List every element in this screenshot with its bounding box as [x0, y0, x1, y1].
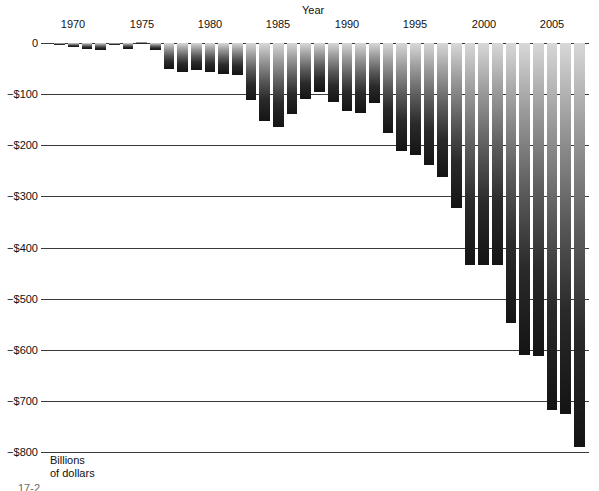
x-axis-tick-label: 1995 [403, 18, 427, 30]
bar [478, 43, 489, 265]
y-axis-tick-mark [41, 401, 50, 402]
x-axis-title: Year [302, 4, 324, 16]
bar [259, 43, 270, 121]
bar [492, 43, 503, 265]
y-axis-tick-label: −$800 [0, 446, 38, 458]
gridline [50, 401, 589, 402]
bar [68, 43, 79, 47]
bar [465, 43, 476, 265]
bar [342, 43, 353, 111]
bar [109, 43, 120, 45]
y-axis-tick-label: −$300 [0, 190, 38, 202]
x-axis-tick-label: 2000 [472, 18, 496, 30]
x-axis-tick-label: 1970 [61, 18, 85, 30]
y-axis-tick-mark [41, 248, 50, 249]
bar [123, 43, 134, 49]
bar [533, 43, 544, 356]
bar [246, 43, 257, 100]
bar [136, 42, 147, 44]
bar [177, 43, 188, 72]
bar [287, 43, 298, 114]
y-axis-tick-label: −$600 [0, 344, 38, 356]
y-axis-tick-mark [41, 196, 50, 197]
y-axis-caption-line2: of dollars [50, 467, 95, 480]
bar [82, 43, 93, 49]
chart-root: Year 19701975198019851990199520002005 0−… [0, 0, 599, 491]
y-axis-tick-label: −$500 [0, 293, 38, 305]
bar [506, 43, 517, 323]
bar [314, 43, 325, 92]
gridline [50, 350, 589, 351]
y-axis-tick-label: −$700 [0, 395, 38, 407]
bar [547, 43, 558, 410]
bar [451, 43, 462, 208]
y-axis-tick-label: −$100 [0, 88, 38, 100]
y-axis-tick-mark [41, 452, 50, 453]
bar [54, 43, 65, 45]
bar [218, 43, 229, 74]
bar [164, 43, 175, 69]
bar [232, 43, 243, 75]
bar [574, 43, 585, 447]
cut-off-figure-number: 17-2 [18, 482, 40, 491]
y-axis-tick-mark [41, 299, 50, 300]
y-axis-tick-mark [41, 350, 50, 351]
bar [300, 43, 311, 99]
bar [273, 43, 284, 127]
y-axis-tick-label: 0 [0, 37, 38, 49]
x-axis-tick-label: 1990 [335, 18, 359, 30]
bar [205, 43, 216, 72]
bar [437, 43, 448, 177]
x-axis-tick-label: 1975 [130, 18, 154, 30]
y-axis-tick-mark [41, 43, 50, 44]
bar [383, 43, 394, 133]
y-axis-tick-mark [41, 145, 50, 146]
gridline [50, 452, 589, 453]
y-axis-tick-label: −$200 [0, 139, 38, 151]
bar [95, 43, 106, 50]
x-axis-tick-label: 1985 [266, 18, 290, 30]
bar [191, 43, 202, 70]
bar [369, 43, 380, 103]
bar [424, 43, 435, 165]
bar [328, 43, 339, 102]
bar [519, 43, 530, 355]
bar [396, 43, 407, 151]
y-axis-tick-mark [41, 94, 50, 95]
y-axis-caption-line1: Billions [50, 454, 85, 467]
bar [150, 43, 161, 50]
bar [355, 43, 366, 113]
y-axis-tick-label: −$400 [0, 242, 38, 254]
x-axis-tick-label: 1980 [198, 18, 222, 30]
x-axis-tick-label: 2005 [540, 18, 564, 30]
bar [560, 43, 571, 414]
bar [410, 43, 421, 155]
